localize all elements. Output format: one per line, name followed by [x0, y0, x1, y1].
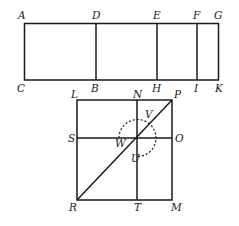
rectangle-acgk: [25, 24, 219, 81]
label-g: G: [214, 9, 222, 21]
label-t: T: [134, 201, 142, 213]
label-s: S: [68, 132, 75, 144]
label-b: B: [90, 82, 99, 94]
label-u: U: [131, 152, 141, 164]
diagonal-rp: [77, 100, 172, 200]
label-v: V: [145, 108, 154, 120]
label-k: K: [214, 82, 224, 94]
label-h: H: [151, 82, 162, 94]
label-n: N: [132, 88, 143, 100]
figure-canvas: A D E F G C B H I K L N P S O V W U R T …: [0, 0, 239, 226]
label-p: P: [173, 88, 182, 100]
label-o: O: [175, 132, 184, 144]
label-c: C: [17, 82, 25, 94]
label-l: L: [70, 88, 78, 100]
label-a: A: [17, 9, 26, 21]
label-d: D: [91, 9, 101, 21]
label-f: F: [192, 9, 201, 21]
label-m: M: [170, 201, 182, 213]
lower-square: [77, 100, 172, 200]
geometry-figure: A D E F G C B H I K L N P S O V W U R T …: [0, 0, 239, 226]
upper-rectangle: [25, 24, 219, 81]
label-w: W: [115, 137, 127, 149]
label-r: R: [68, 201, 77, 213]
label-e: E: [152, 9, 161, 21]
label-i: I: [193, 82, 199, 94]
